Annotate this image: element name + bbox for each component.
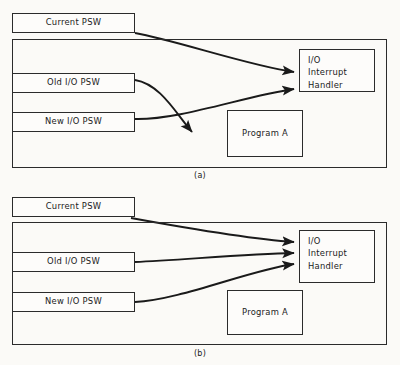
new-io-psw-box-b: New I/O PSW xyxy=(12,292,135,312)
program-a-label-a: Program A xyxy=(242,128,288,139)
current-psw-box-a: Current PSW xyxy=(12,13,135,33)
handler-line3-b: Handler xyxy=(308,261,347,272)
new-io-psw-label-b: New I/O PSW xyxy=(45,296,102,307)
new-io-psw-label-a: New I/O PSW xyxy=(45,116,102,127)
handler-line3-a: Handler xyxy=(308,80,347,91)
current-psw-label-a: Current PSW xyxy=(46,17,102,28)
handler-line1-a: I/O xyxy=(308,55,347,66)
old-io-psw-label-a: Old I/O PSW xyxy=(47,77,100,88)
panel-b-caption: (b) xyxy=(0,349,400,358)
panel-a-caption: (a) xyxy=(0,171,400,180)
program-a-box-b: Program A xyxy=(227,290,303,335)
old-io-psw-label-b: Old I/O PSW xyxy=(47,256,100,267)
current-psw-label-b: Current PSW xyxy=(46,201,102,212)
io-interrupt-handler-box-a: I/O Interrupt Handler xyxy=(299,49,375,92)
new-io-psw-box-a: New I/O PSW xyxy=(12,112,135,132)
program-a-box-a: Program A xyxy=(227,110,303,157)
io-interrupt-handler-box-b: I/O Interrupt Handler xyxy=(299,230,375,283)
handler-line2-a: Interrupt xyxy=(308,67,347,78)
handler-line1-b: I/O xyxy=(308,236,347,247)
handler-line2-b: Interrupt xyxy=(308,248,347,259)
current-psw-box-b: Current PSW xyxy=(12,197,135,217)
old-io-psw-box-a: Old I/O PSW xyxy=(12,73,135,93)
figure-canvas: Current PSW Old I/O PSW New I/O PSW I/O … xyxy=(0,0,400,365)
old-io-psw-box-b: Old I/O PSW xyxy=(12,252,135,272)
program-a-label-b: Program A xyxy=(242,307,288,318)
